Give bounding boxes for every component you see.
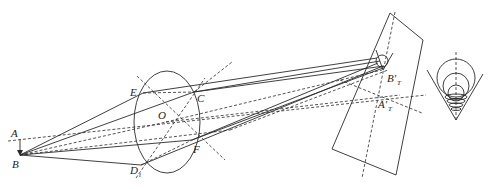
label-C: C	[197, 92, 205, 104]
optical-diagram: A B E C O F D i B′ T A′ T	[0, 0, 491, 189]
image-plane	[332, 13, 423, 175]
lens-construction-lines	[136, 62, 232, 178]
label-A: A	[10, 127, 18, 139]
rays-dashed	[20, 70, 422, 155]
label-B-image: B′	[387, 72, 397, 84]
label-D-sub: i	[139, 171, 141, 179]
label-E: E	[129, 86, 137, 98]
label-D: D	[129, 164, 138, 176]
label-A-image-sub: T	[388, 105, 393, 113]
label-F: F	[192, 143, 200, 155]
defocus-cone-inset	[427, 52, 483, 120]
rays-solid	[20, 58, 384, 165]
label-B: B	[12, 158, 19, 170]
label-B-image-sub: T	[397, 79, 402, 87]
image-plane-axis	[362, 12, 395, 178]
label-O: O	[158, 109, 166, 121]
label-A-image: A′	[377, 98, 388, 110]
